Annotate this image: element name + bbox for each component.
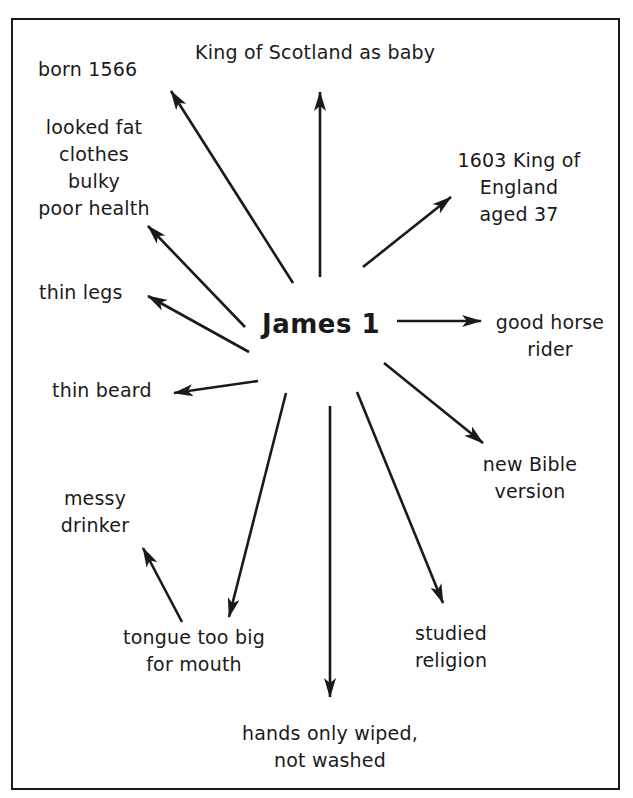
node-king-scotland: King of Scotland as baby	[195, 39, 435, 66]
node-thin-beard-line: thin beard	[52, 377, 152, 404]
central-topic: James 1	[262, 309, 380, 339]
node-hands: hands only wiped, not washed	[212, 720, 448, 774]
node-horse-rider-line-1: good horse	[486, 309, 614, 336]
node-horse-rider-line-2: rider	[486, 336, 614, 363]
node-looked-fat-line-3: bulky	[28, 168, 160, 195]
node-bible-line-1: new Bible	[470, 451, 590, 478]
node-religion: studied religion	[405, 620, 497, 674]
node-born: born 1566	[38, 56, 137, 83]
node-tongue: tongue too big for mouth	[110, 624, 278, 678]
arrow-bible	[384, 363, 483, 443]
node-looked-fat: looked fat clothes bulky poor health	[28, 114, 160, 222]
node-king-scotland-line: King of Scotland as baby	[195, 39, 435, 66]
node-messy-drinker: messy drinker	[50, 485, 140, 539]
arrow-thin-beard	[174, 381, 258, 393]
arrow-looked-fat	[148, 226, 245, 327]
node-looked-fat-line-4: poor health	[28, 195, 160, 222]
node-horse-rider: good horse rider	[486, 309, 614, 363]
node-thin-legs: thin legs	[39, 279, 123, 306]
node-bible-line-2: version	[470, 478, 590, 505]
node-religion-line-2: religion	[405, 647, 497, 674]
node-king-england-line-2: England	[446, 174, 592, 201]
node-king-england-line-3: aged 37	[446, 201, 592, 228]
arrow-religion	[357, 392, 443, 603]
node-bible: new Bible version	[470, 451, 590, 505]
node-looked-fat-line-2: clothes	[28, 141, 160, 168]
arrow-born	[171, 91, 293, 283]
node-hands-line-2: not washed	[212, 747, 448, 774]
node-looked-fat-line-1: looked fat	[28, 114, 160, 141]
node-king-england: 1603 King of England aged 37	[446, 147, 592, 228]
node-messy-drinker-line-2: drinker	[50, 512, 140, 539]
node-messy-drinker-line-1: messy	[50, 485, 140, 512]
node-tongue-line-2: for mouth	[110, 651, 278, 678]
node-born-line: born 1566	[38, 56, 137, 83]
node-tongue-line-1: tongue too big	[110, 624, 278, 651]
arrow-tongue	[229, 393, 286, 617]
node-king-england-line-1: 1603 King of	[446, 147, 592, 174]
node-thin-legs-line: thin legs	[39, 279, 123, 306]
arrow-messy-drinker	[143, 548, 182, 622]
node-thin-beard: thin beard	[52, 377, 152, 404]
node-religion-line-1: studied	[405, 620, 497, 647]
arrow-thin-legs	[148, 296, 249, 352]
node-hands-line-1: hands only wiped,	[212, 720, 448, 747]
arrow-king-england	[363, 197, 451, 267]
